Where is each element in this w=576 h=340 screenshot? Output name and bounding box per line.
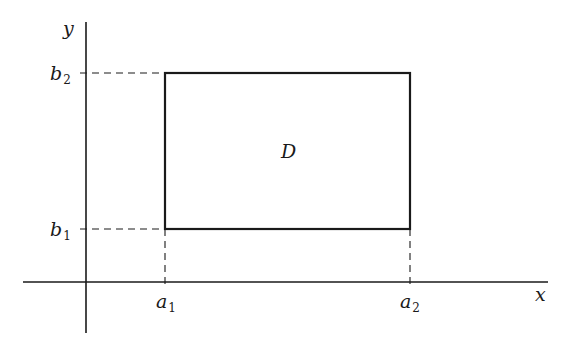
b1-sub: 1	[63, 229, 71, 243]
b2-label: b2	[50, 64, 71, 86]
region-diagram	[0, 0, 576, 340]
region-label: D	[281, 142, 296, 161]
a2-sub: 2	[412, 301, 420, 315]
a1-var: a	[156, 290, 167, 312]
a1-label: a1	[156, 292, 176, 314]
b1-var: b	[50, 218, 62, 240]
x-axis-label-text: x	[535, 283, 546, 305]
x-axis-label: x	[535, 285, 546, 304]
y-axis-label: y	[63, 19, 74, 38]
a2-label: a2	[400, 292, 420, 314]
b1-label: b1	[50, 220, 71, 242]
region-label-text: D	[281, 140, 296, 162]
y-axis-label-text: y	[63, 17, 74, 39]
a2-var: a	[400, 290, 411, 312]
b2-sub: 2	[63, 73, 71, 87]
a1-sub: 1	[168, 301, 176, 315]
b2-var: b	[50, 62, 62, 84]
